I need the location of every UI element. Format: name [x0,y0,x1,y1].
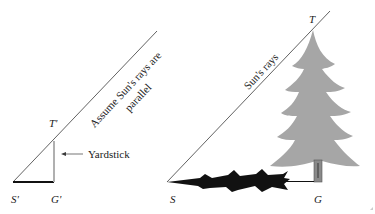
label-t: T [309,14,315,25]
yardstick-label: Yardstick [88,149,130,160]
page-corner-mark [370,207,373,210]
similar-triangles-diagram [0,0,375,214]
yardstick-arrow-icon [61,152,66,156]
label-t-prime: T' [49,118,57,129]
label-s-prime: S' [11,194,19,205]
label-g-prime: G' [51,194,61,205]
tree-shadow [167,169,290,192]
label-g: G [314,194,322,205]
label-s: S [170,194,176,205]
tree-icon [270,30,360,167]
